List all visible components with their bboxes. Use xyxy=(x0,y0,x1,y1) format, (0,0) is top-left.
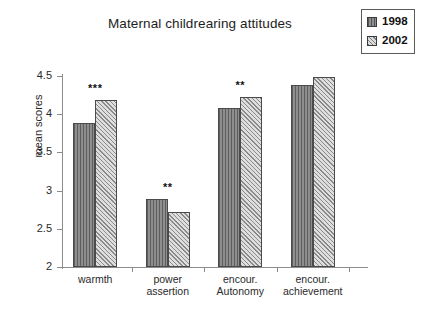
plot-area: ******* xyxy=(63,76,353,267)
legend-label-2002: 2002 xyxy=(382,35,408,47)
y-axis-tick-label: 2.5 xyxy=(12,223,52,234)
bar-1998-power-assertion xyxy=(146,199,168,267)
chart-title: Maternal childrearing attitudes xyxy=(55,16,345,31)
bar-chart: Maternal childrearing attitudes 1998 200… xyxy=(0,0,435,314)
legend-item-1998: 1998 xyxy=(367,14,408,30)
y-axis-tick xyxy=(57,267,63,268)
legend-swatch-icon-2002 xyxy=(367,36,377,46)
significance-marker: ** xyxy=(208,80,272,91)
bar-1998-warmth xyxy=(73,123,95,267)
y-axis-tick-label: 3.5 xyxy=(12,146,52,157)
legend-label-1998: 1998 xyxy=(382,16,408,28)
y-axis-tick-label: 2 xyxy=(12,261,52,272)
bar-2002-warmth xyxy=(95,100,117,267)
x-axis-separator xyxy=(132,267,133,272)
x-axis-category-line: achievement xyxy=(268,285,358,297)
bar-2002-encour-achievement xyxy=(313,77,335,267)
significance-marker: ** xyxy=(136,182,200,193)
bar-2002-encour-autonomy xyxy=(240,97,262,267)
x-axis-separator xyxy=(277,267,278,272)
y-axis-tick-label: 3 xyxy=(12,185,52,196)
legend-item-2002: 2002 xyxy=(367,33,408,49)
bar-1998-encour-achievement xyxy=(291,85,313,267)
chart-legend: 1998 2002 xyxy=(361,9,415,54)
x-axis-line xyxy=(57,267,368,268)
y-axis-tick-label: 4.5 xyxy=(12,70,52,81)
legend-swatch-icon-1998 xyxy=(367,17,377,27)
bar-1998-encour-autonomy xyxy=(218,108,240,267)
bar-2002-power-assertion xyxy=(168,212,190,267)
x-axis-separator xyxy=(349,267,350,272)
x-axis-separator xyxy=(204,267,205,272)
x-axis-category-line: encour. xyxy=(268,273,358,285)
significance-marker: *** xyxy=(63,83,127,94)
x-axis-category-label: encour.achievement xyxy=(268,273,358,297)
y-axis-title: mean scores xyxy=(32,66,44,186)
y-axis-tick-label: 4 xyxy=(12,108,52,119)
